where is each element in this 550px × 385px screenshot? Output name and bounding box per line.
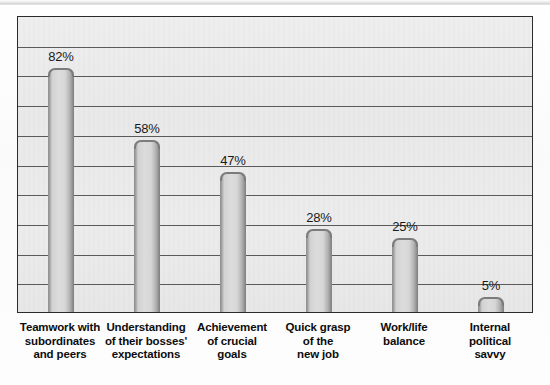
bars-group: 82%58%47%28%25%5% bbox=[18, 17, 532, 312]
bar-slot: 25% bbox=[362, 17, 448, 312]
bar-value-label: 82% bbox=[48, 49, 73, 64]
category-label-line: Internal bbox=[447, 321, 533, 335]
bar[interactable] bbox=[48, 68, 74, 312]
category-label-line: new job bbox=[275, 348, 361, 362]
category-label: Internalpoliticalsavvy bbox=[447, 321, 533, 362]
category-label-line: and peers bbox=[17, 348, 103, 362]
bar-value-label: 25% bbox=[392, 219, 417, 234]
category-label: Understandingof their bosses'expectation… bbox=[103, 321, 189, 362]
bar-value-label: 5% bbox=[482, 278, 500, 293]
category-label: Teamwork withsubordinatesand peers bbox=[17, 321, 103, 362]
category-label-line: Achievement bbox=[189, 321, 275, 335]
bar-slot: 82% bbox=[18, 17, 104, 312]
category-label-line: balance bbox=[361, 335, 447, 349]
category-label-line: Teamwork with bbox=[17, 321, 103, 335]
bar-value-label: 28% bbox=[306, 210, 331, 225]
bar-value-label: 47% bbox=[220, 153, 245, 168]
bar[interactable] bbox=[392, 238, 418, 312]
category-label: Quick graspof thenew job bbox=[275, 321, 361, 362]
bar-chart-figure: 82%58%47%28%25%5% Teamwork withsubordina… bbox=[0, 0, 550, 385]
category-labels-row: Teamwork withsubordinatesand peersUnders… bbox=[17, 321, 533, 362]
bar-slot: 5% bbox=[448, 17, 533, 312]
category-label-line: Understanding bbox=[103, 321, 189, 335]
bar[interactable] bbox=[478, 297, 504, 312]
bar-slot: 47% bbox=[190, 17, 276, 312]
bar-slot: 58% bbox=[104, 17, 190, 312]
category-label: Achievementof crucialgoals bbox=[189, 321, 275, 362]
category-label-line: subordinates bbox=[17, 335, 103, 349]
bar[interactable] bbox=[220, 172, 246, 312]
scan-edge-artifact bbox=[0, 0, 550, 5]
bar-slot: 28% bbox=[276, 17, 362, 312]
category-label-line: goals bbox=[189, 348, 275, 362]
category-label-line: political bbox=[447, 335, 533, 349]
bar[interactable] bbox=[134, 140, 160, 312]
category-label-line: of the bbox=[275, 335, 361, 349]
bar[interactable] bbox=[306, 229, 332, 312]
category-label: Work/lifebalance bbox=[361, 321, 447, 362]
bar-value-label: 58% bbox=[134, 121, 159, 136]
category-label-line: expectations bbox=[103, 348, 189, 362]
category-label-line: Quick grasp bbox=[275, 321, 361, 335]
category-label-line: of their bosses' bbox=[103, 335, 189, 349]
category-label-line: savvy bbox=[447, 348, 533, 362]
category-label-line: Work/life bbox=[361, 321, 447, 335]
category-label-line: of crucial bbox=[189, 335, 275, 349]
chart-plot-area: 82%58%47%28%25%5% bbox=[17, 16, 533, 313]
